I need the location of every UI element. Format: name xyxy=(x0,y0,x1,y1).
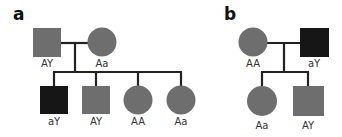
panel-b-label: b xyxy=(224,4,236,24)
panel-a: a AY Aa aY AY AA Aa xyxy=(13,4,196,127)
child-square-affected-a1 xyxy=(40,86,68,114)
genotype-child-a2: AY xyxy=(90,116,103,127)
genotype-child-a1: aY xyxy=(48,116,61,127)
child-circle-b1 xyxy=(247,86,277,116)
child-square-b2 xyxy=(293,86,324,116)
panel-b: b AA aY Aa AY xyxy=(224,4,329,131)
genotype-child-a4: Aa xyxy=(175,116,188,127)
panel-a-label: a xyxy=(13,4,24,24)
child-square-a2 xyxy=(82,86,110,114)
pedigree-figure: a AY Aa aY AY AA Aa b AA xyxy=(0,0,342,137)
father-square-affected-b xyxy=(300,28,329,57)
child-circle-a3 xyxy=(124,86,153,115)
mother-circle-a xyxy=(88,28,117,57)
genotype-child-b2: AY xyxy=(302,120,315,131)
child-circle-a4 xyxy=(167,86,196,115)
father-square-a xyxy=(33,28,61,57)
genotype-mother-b: AA xyxy=(246,58,260,69)
genotype-child-a3: AA xyxy=(131,116,145,127)
genotype-mother-a: Aa xyxy=(96,58,109,69)
mother-circle-b xyxy=(239,28,268,57)
genotype-father-a: AY xyxy=(41,58,54,69)
genotype-father-b: aY xyxy=(308,58,321,69)
genotype-child-b1: Aa xyxy=(256,120,269,131)
